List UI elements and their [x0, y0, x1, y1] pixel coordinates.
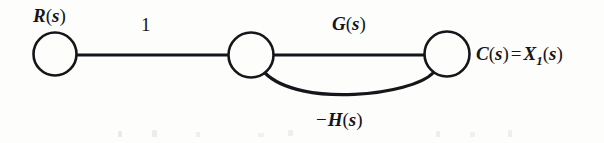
- edge-feedback-arrowhead: [347, 99, 364, 101]
- forward-gain-base: G: [332, 13, 346, 34]
- input-node: [34, 33, 77, 76]
- output-label-x-base: X: [523, 43, 536, 64]
- scan-artifact: [152, 130, 157, 137]
- output-label-x-close-paren: ): [556, 43, 562, 64]
- edge-gain-label-one: 1: [141, 15, 151, 34]
- edge-feedback: [265, 73, 433, 102]
- edge-feedback-curve: [265, 73, 433, 95]
- forward-gain-close-paren: ): [359, 13, 365, 34]
- input-node-label: R(s): [33, 6, 66, 25]
- feedback-gain-close-paren: ): [356, 109, 362, 130]
- scan-artifact: [436, 131, 440, 137]
- input-label-close-paren: ): [59, 5, 65, 26]
- summing-node: [229, 33, 274, 78]
- scan-artifact: [288, 130, 293, 136]
- scan-artifact: [508, 130, 512, 137]
- feedback-gain-minus-sign: −: [316, 109, 328, 130]
- output-label-c-base: C: [476, 43, 489, 64]
- input-label-base: R: [33, 5, 46, 26]
- scan-artifact: [258, 133, 264, 137]
- scan-artifact: [118, 131, 122, 137]
- scan-artifact: [470, 132, 475, 137]
- scan-artifact: [196, 132, 200, 137]
- feedback-gain-label: −H(s): [316, 110, 363, 129]
- signal-flow-graph-figure: R(s) 1 G(s) −H(s) C(s)=X1(s): [0, 0, 604, 143]
- feedback-gain-base: H: [328, 109, 343, 130]
- graph-canvas: [0, 0, 604, 143]
- forward-gain-label: G(s): [332, 14, 366, 33]
- output-node: [425, 32, 470, 77]
- output-label-c-close-paren: ): [502, 43, 508, 64]
- output-node-label: C(s)=X1(s): [476, 44, 563, 67]
- output-label-equals-sign: =: [509, 43, 524, 64]
